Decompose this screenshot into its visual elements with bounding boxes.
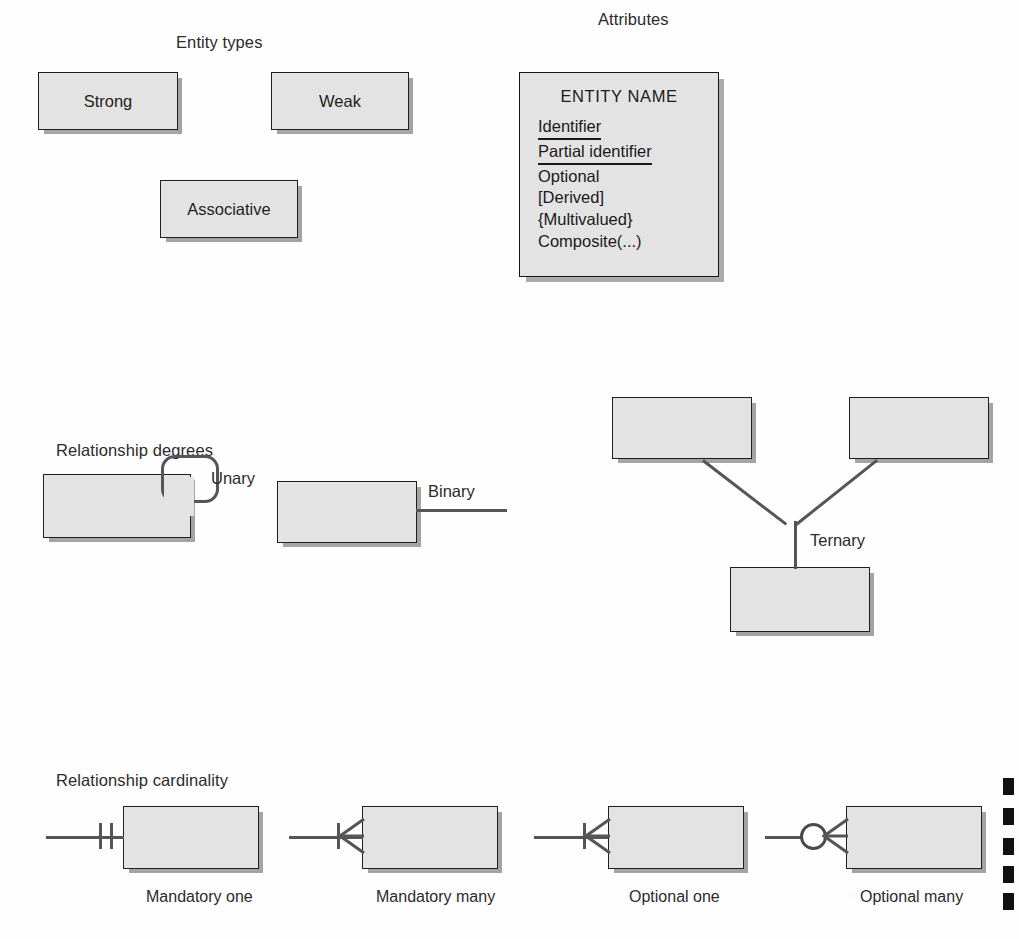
attributes-entity-box: ENTITY NAME Identifier Partial identifie… xyxy=(519,72,719,277)
page-edge-mark-2 xyxy=(1003,808,1014,825)
ternary-entity-box-bottom xyxy=(730,567,870,632)
mandatory-one-tick-1-icon xyxy=(99,823,102,849)
mandatory-many-crowsfoot-icon xyxy=(338,816,366,856)
binary-connector-line xyxy=(416,509,507,512)
section-title-entity-types: Entity types xyxy=(176,33,263,52)
section-title-attributes: Attributes xyxy=(598,10,669,29)
ternary-line-right xyxy=(794,459,878,527)
caption-mandatory-many: Mandatory many xyxy=(376,888,495,906)
ternary-entity-box-right xyxy=(849,397,989,459)
page-edge-mark-5 xyxy=(1003,893,1014,910)
attribute-composite: Composite(...) xyxy=(538,231,642,253)
attributes-list: Identifier Partial identifier Optional [… xyxy=(520,116,718,253)
binary-label: Binary xyxy=(428,482,475,501)
cardinality-box-optional-one xyxy=(608,806,744,869)
mandatory-one-tick-2-icon xyxy=(110,823,113,849)
attribute-multivalued: {Multivalued} xyxy=(538,209,632,231)
binary-entity-box xyxy=(277,481,417,543)
caption-optional-one: Optional one xyxy=(629,888,720,906)
section-title-relationship-cardinality: Relationship cardinality xyxy=(56,771,228,790)
caption-optional-many: Optional many xyxy=(860,888,963,906)
page-edge-mark-1 xyxy=(1003,778,1014,795)
er-notation-diagram: Entity types Attributes Relationship deg… xyxy=(0,0,1019,939)
caption-mandatory-one: Mandatory one xyxy=(146,888,253,906)
attribute-identifier: Identifier xyxy=(538,116,601,140)
cardinality-box-optional-many xyxy=(846,806,982,869)
entity-box-weak-label: Weak xyxy=(272,92,408,111)
cardinality-box-mandatory-many xyxy=(362,806,498,869)
ternary-label: Ternary xyxy=(810,531,865,550)
page-edge-mark-4 xyxy=(1003,866,1014,883)
attribute-optional: Optional xyxy=(538,166,599,188)
optional-one-crowsfoot-icon xyxy=(584,816,612,856)
ternary-line-bottom xyxy=(794,521,797,569)
entity-box-strong-label: Strong xyxy=(39,92,177,111)
page-edge-mark-3 xyxy=(1003,838,1014,855)
entity-box-associative-label: Associative xyxy=(161,200,297,219)
unary-label: Unary xyxy=(211,469,255,488)
entity-box-associative: Associative xyxy=(160,180,298,238)
entity-box-strong: Strong xyxy=(38,72,178,130)
optional-many-crowsfoot-icon xyxy=(822,816,850,856)
ternary-entity-box-left xyxy=(612,397,752,459)
unary-loop-mask xyxy=(164,477,194,516)
entity-box-weak: Weak xyxy=(271,72,409,130)
attribute-partial-identifier: Partial identifier xyxy=(538,141,652,165)
attribute-derived: [Derived] xyxy=(538,187,604,209)
attributes-entity-name: ENTITY NAME xyxy=(520,87,718,106)
ternary-line-left xyxy=(702,459,787,525)
cardinality-box-mandatory-one xyxy=(123,806,259,869)
